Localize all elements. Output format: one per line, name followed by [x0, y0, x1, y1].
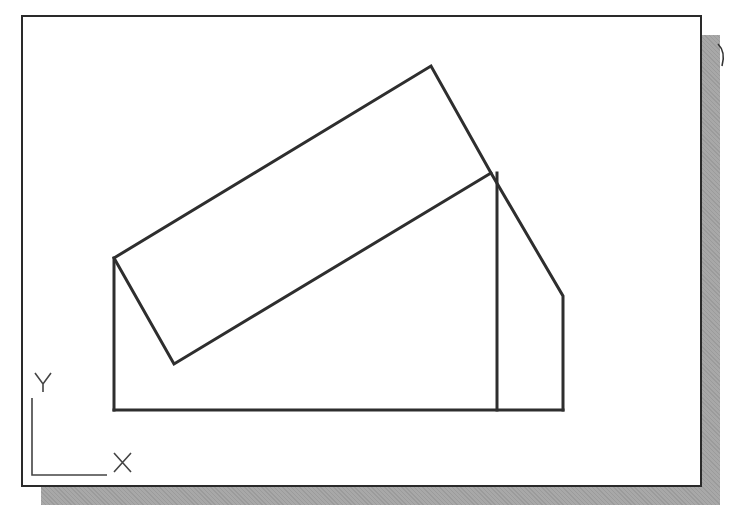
tilted-rectangle[interactable]	[114, 66, 491, 364]
ucs-x-glyph-icon	[114, 453, 131, 472]
cad-drawing	[0, 0, 730, 509]
ucs-icon	[32, 373, 131, 475]
right-profile-line[interactable]	[491, 173, 563, 410]
offscreen-x-glyph-icon	[718, 44, 723, 66]
ucs-y-glyph-icon	[35, 373, 51, 392]
ucs-axes-icon	[32, 398, 107, 475]
